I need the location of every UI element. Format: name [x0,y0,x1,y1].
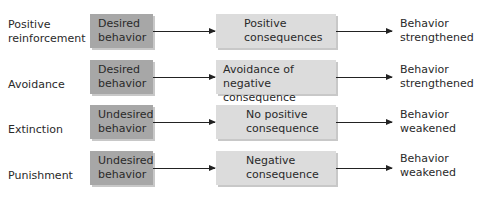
result-line: Behavior [400,108,456,122]
box-line: Negative [246,154,328,168]
row-punishment: Punishment Undesired behavior Negative c… [0,151,484,187]
consequence-box: Negative consequence [216,151,336,185]
arrow-icon [336,77,392,78]
box-line: Desired [98,63,145,77]
result-line: weakened [400,166,456,180]
box-line: behavior [98,122,145,136]
behavior-box: Undesired behavior [90,151,153,185]
arrow-icon [153,77,215,78]
row-type-label: Positive reinforcement [8,18,86,46]
row-type-label: Extinction [8,123,63,137]
box-line: behavior [98,31,145,45]
result-label: Behavior weakened [400,152,456,180]
result-label: Behavior strengthened [400,63,474,91]
arrow-icon [336,122,392,123]
label-line: reinforcement [8,32,86,46]
arrow-icon [153,122,215,123]
box-line: consequences [244,31,328,45]
label-line: Positive [8,18,86,32]
result-line: strengthened [400,77,474,91]
row-extinction: Extinction Undesired behavior No positiv… [0,105,484,141]
consequence-box: No positive consequence [216,105,336,139]
box-line: behavior [98,77,145,91]
consequence-box: Avoidance of negative consequence [216,60,336,94]
result-line: strengthened [400,31,474,45]
box-line: No positive [246,108,328,122]
arrow-icon [336,31,392,32]
result-label: Behavior weakened [400,108,456,136]
box-line: behavior [98,168,145,182]
result-line: weakened [400,122,456,136]
row-type-label: Punishment [8,169,73,183]
box-line: consequence [246,168,328,182]
arrow-icon [336,168,392,169]
behavior-box: Desired behavior [90,14,153,48]
box-line: Undesired [98,108,145,122]
row-type-label: Avoidance [8,78,65,92]
box-line: Avoidance of [223,63,328,77]
box-line: Desired [98,17,145,31]
box-line: Undesired [98,154,145,168]
box-line: negative consequence [223,77,328,105]
row-avoidance: Avoidance Desired behavior Avoidance of … [0,60,484,96]
consequence-box: Positive consequences [216,14,336,48]
box-line: Positive [244,17,328,31]
result-label: Behavior strengthened [400,17,474,45]
row-positive-reinforcement: Positive reinforcement Desired behavior … [0,14,484,50]
behavior-box: Desired behavior [90,60,153,94]
arrow-icon [153,31,215,32]
box-line: consequence [246,122,328,136]
result-line: Behavior [400,17,474,31]
result-line: Behavior [400,63,474,77]
result-line: Behavior [400,152,456,166]
behavior-box: Undesired behavior [90,105,153,139]
arrow-icon [153,168,215,169]
